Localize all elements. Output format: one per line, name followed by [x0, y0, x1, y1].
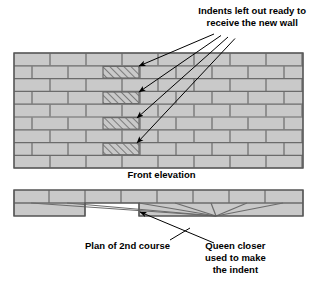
indent-brick-hatched [103, 92, 139, 104]
plan-second-course-drawing [14, 190, 303, 216]
plan-of-2nd-course-label: Plan of 2nd course [85, 240, 170, 252]
front-elevation-drawing [14, 53, 303, 168]
indent-brick-hatched [103, 66, 139, 78]
indent-brick-hatched [103, 118, 139, 130]
brickwork-indent-diagram: Indents left out ready to receive the ne… [0, 0, 323, 294]
front-elevation-label: Front elevation [0, 169, 323, 181]
queen-closer-note-label: Queen closer used to make the indent [205, 240, 266, 276]
queen-closer-leader-line [140, 212, 214, 243]
plan-label-leader-line [170, 228, 190, 240]
indent-note-label: Indents left out ready to receive the ne… [198, 5, 306, 28]
indent-brick-hatched [103, 143, 139, 155]
